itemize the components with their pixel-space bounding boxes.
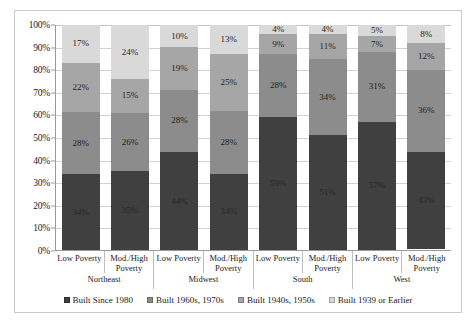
y-axis-tick-label: 90% — [33, 43, 50, 53]
category-label: Low Poverty — [353, 251, 403, 273]
bar-segment-label: 25% — [221, 78, 238, 87]
y-axis-tick-label: 50% — [33, 133, 50, 143]
bar-segment[interactable]: 7% — [358, 36, 396, 52]
bar-segment[interactable]: 28% — [259, 54, 297, 117]
y-axis-tick-label: 30% — [33, 178, 50, 188]
stacked-bar[interactable]: 17%22%28%34% — [62, 25, 100, 250]
legend-swatch-icon — [329, 297, 335, 303]
y-axis-tick-label: 60% — [33, 110, 50, 120]
region-axis: NortheastMidwestSouthWest — [55, 273, 451, 289]
bar-segment[interactable]: 51% — [309, 135, 347, 250]
bar-segment[interactable]: 22% — [62, 63, 100, 112]
region-label-midwest: Midwest — [154, 273, 253, 289]
bar-segment-label: 34% — [221, 207, 238, 216]
legend-label: Built 1960s, 1970s — [156, 295, 224, 305]
category-group: Low PovertyMod./High Poverty — [254, 251, 353, 273]
bar-segment[interactable]: 24% — [111, 25, 149, 79]
bar-series-container: 17%22%28%34%24%15%26%35%10%19%28%44%13%2… — [56, 25, 451, 250]
legend-swatch-icon — [147, 297, 153, 303]
category-group: Low PovertyMod./High Poverty — [55, 251, 154, 273]
bar-segment[interactable]: 5% — [358, 25, 396, 36]
bar-segment[interactable]: 8% — [407, 25, 445, 43]
plot-wrapper: 0%10%20%30%40%50%60%70%80%90%100% 17%22%… — [15, 11, 461, 312]
stacked-bar[interactable]: 13%25%28%34% — [210, 25, 248, 250]
bar-segment[interactable]: 10% — [160, 25, 198, 47]
region-label-west: West — [353, 273, 451, 289]
bar-segment-label: 34% — [319, 93, 336, 102]
bar-segment-label: 28% — [72, 139, 89, 148]
category-label: Mod./High Poverty — [402, 251, 451, 273]
bar-segment[interactable]: 28% — [210, 111, 248, 174]
region-label-northeast: Northeast — [55, 273, 154, 289]
bar-segment-label: 51% — [319, 188, 336, 197]
legend-item[interactable]: Built 1940s, 1950s — [238, 295, 315, 305]
stacked-bar[interactable]: 5%7%31%57% — [358, 25, 396, 250]
plot-area: 17%22%28%34%24%15%26%35%10%19%28%44%13%2… — [55, 25, 451, 251]
bar-segment-label: 59% — [270, 179, 287, 188]
category-label: Low Poverty — [55, 251, 105, 273]
legend-label: Built Since 1980 — [73, 295, 134, 305]
bar-segment[interactable]: 36% — [407, 70, 445, 151]
stacked-bar[interactable]: 24%15%26%35% — [111, 25, 149, 250]
bar-segment[interactable]: 25% — [210, 54, 248, 110]
stacked-bar[interactable]: 4%11%34%51% — [309, 25, 347, 250]
legend-item[interactable]: Built Since 1980 — [64, 295, 134, 305]
stacked-bar[interactable]: 10%19%28%44% — [160, 25, 198, 250]
bar-segment[interactable]: 12% — [407, 43, 445, 70]
bar-segment[interactable]: 4% — [259, 25, 297, 34]
bar-segment-label: 35% — [122, 206, 139, 215]
stacked-bar[interactable]: 4%9%28%59% — [259, 25, 297, 250]
bar-segment-label: 4% — [272, 25, 284, 34]
bar-segment[interactable]: 9% — [259, 34, 297, 54]
bar-segment[interactable]: 43% — [407, 152, 445, 249]
bar-segment-label: 9% — [272, 40, 284, 49]
bar-segment-label: 44% — [171, 197, 188, 206]
bar-segment-label: 17% — [72, 39, 89, 48]
category-label: Mod./High Poverty — [303, 251, 352, 273]
bar-segment[interactable]: 19% — [160, 47, 198, 89]
bar-group-midwest: 10%19%28%44%13%25%28%34% — [155, 25, 254, 250]
bar-segment-label: 57% — [369, 181, 386, 190]
y-axis-tick-label: 40% — [33, 156, 50, 166]
bar-segment[interactable]: 13% — [210, 25, 248, 54]
bar-group-northeast: 17%22%28%34%24%15%26%35% — [56, 25, 155, 250]
bar-segment[interactable]: 35% — [111, 171, 149, 250]
category-group: Low PovertyMod./High Poverty — [353, 251, 451, 273]
legend-item[interactable]: Built 1939 or Earlier — [329, 295, 413, 305]
bar-segment[interactable]: 34% — [309, 59, 347, 136]
bar-segment-label: 13% — [221, 35, 238, 44]
bar-segment[interactable]: 28% — [62, 112, 100, 174]
legend-swatch-icon — [238, 297, 244, 303]
bar-segment[interactable]: 4% — [309, 25, 347, 34]
bar-segment-label: 24% — [122, 48, 139, 57]
bar-segment-label: 11% — [319, 42, 335, 51]
bar-segment[interactable]: 26% — [111, 113, 149, 172]
bar-segment-label: 28% — [171, 116, 188, 125]
bar-segment-label: 26% — [122, 138, 139, 147]
bar-segment-label: 31% — [369, 82, 386, 91]
bar-segment[interactable]: 17% — [62, 25, 100, 63]
bar-segment[interactable]: 34% — [62, 174, 100, 250]
legend-item[interactable]: Built 1960s, 1970s — [147, 295, 224, 305]
bar-segment-label: 15% — [122, 91, 139, 100]
category-label: Low Poverty — [254, 251, 304, 273]
bar-segment[interactable]: 15% — [111, 79, 149, 113]
bar-segment[interactable]: 28% — [160, 90, 198, 152]
chart-container: 0%10%20%30%40%50%60%70%80%90%100% 17%22%… — [14, 10, 462, 313]
y-axis-tick-label: 20% — [33, 201, 50, 211]
bar-group-west: 5%7%31%57%8%12%36%43% — [352, 25, 451, 250]
bar-segment-label: 4% — [322, 25, 334, 34]
bar-segment[interactable]: 44% — [160, 152, 198, 250]
bar-segment-label: 5% — [371, 26, 383, 35]
legend-label: Built 1940s, 1950s — [247, 295, 315, 305]
bar-segment[interactable]: 11% — [309, 34, 347, 59]
bar-segment-label: 12% — [418, 52, 435, 61]
bar-segment[interactable]: 57% — [358, 122, 396, 250]
bar-segment-label: 43% — [418, 196, 435, 205]
bar-segment[interactable]: 34% — [210, 174, 248, 251]
stacked-bar[interactable]: 8%12%36%43% — [407, 25, 445, 250]
bar-segment[interactable]: 31% — [358, 52, 396, 122]
y-axis-tick-label: 0% — [38, 246, 50, 256]
bar-segment[interactable]: 59% — [259, 117, 297, 250]
bar-segment-label: 19% — [171, 64, 188, 73]
